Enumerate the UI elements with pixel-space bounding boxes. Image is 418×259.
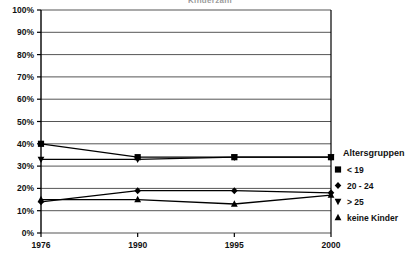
legend-item[interactable]: keine Kinder xyxy=(335,213,399,223)
y-tick-label: 70% xyxy=(17,72,34,82)
y-tick-label: 0% xyxy=(22,228,35,238)
y-tick-label: 20% xyxy=(17,183,34,193)
legend-item-label: 20 - 24 xyxy=(347,181,374,191)
y-tick-label: 100% xyxy=(12,5,34,15)
y-axis: 0%10%20%30%40%50%60%70%80%90%100% xyxy=(12,5,41,238)
y-tick-label: 80% xyxy=(17,50,34,60)
series-line xyxy=(41,144,331,157)
line-chart: 0%10%20%30%40%50%60%70%80%90%100%1976199… xyxy=(0,0,418,259)
series-keine-kinder xyxy=(38,191,335,206)
x-tick-label: 1990 xyxy=(128,240,147,250)
legend-title: Altersgruppen xyxy=(343,148,405,158)
x-tick-label: 1995 xyxy=(225,240,244,250)
y-tick-label: 50% xyxy=(17,117,34,127)
legend-item[interactable]: > 25 xyxy=(335,197,364,207)
marker-triangle-up xyxy=(335,214,342,220)
y-tick-label: 90% xyxy=(17,27,34,37)
legend-item[interactable]: < 19 xyxy=(335,165,364,175)
series--25 xyxy=(38,154,335,163)
x-tick-label: 2000 xyxy=(322,240,341,250)
legend-item-label: > 25 xyxy=(347,197,364,207)
marker-diamond xyxy=(335,182,342,189)
legend-item[interactable]: 20 - 24 xyxy=(335,181,374,191)
x-axis: 1976199019952000 xyxy=(32,233,341,250)
legend-item-label: < 19 xyxy=(347,165,364,175)
chart-container: Kinderzahl 0%10%20%30%40%50%60%70%80%90%… xyxy=(0,0,418,259)
y-tick-label: 40% xyxy=(17,139,34,149)
marker-square xyxy=(335,166,341,172)
marker-triangle-down xyxy=(335,199,342,205)
series-group xyxy=(38,141,335,207)
y-tick-label: 60% xyxy=(17,94,34,104)
y-tick-label: 10% xyxy=(17,206,34,216)
x-tick-label: 1976 xyxy=(32,240,51,250)
legend: Altersgruppen< 1920 - 24> 25keine Kinder xyxy=(335,148,405,223)
y-tick-label: 30% xyxy=(17,161,34,171)
legend-item-label: keine Kinder xyxy=(347,213,399,223)
marker-square xyxy=(38,141,44,147)
series-20-24 xyxy=(38,187,335,205)
